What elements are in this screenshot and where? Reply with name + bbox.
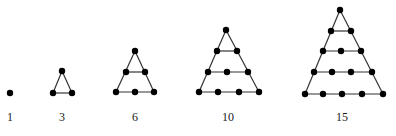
figure-label: 15	[336, 110, 348, 124]
triangle-figure-10: 10	[196, 27, 262, 124]
dot	[123, 69, 129, 75]
figure-label: 3	[59, 110, 65, 124]
dot	[234, 48, 240, 54]
dot	[50, 90, 56, 96]
figure-label: 6	[132, 110, 138, 124]
dot	[142, 69, 148, 75]
dot	[236, 89, 242, 95]
triangle-figure-3: 3	[50, 68, 75, 124]
dot	[132, 48, 138, 54]
dot	[348, 69, 354, 75]
dot	[369, 69, 375, 75]
dot	[214, 48, 220, 54]
dot	[113, 89, 119, 95]
dot	[215, 89, 221, 95]
dot	[196, 89, 202, 95]
dot	[338, 48, 344, 54]
dot	[358, 48, 364, 54]
dot	[7, 90, 13, 96]
dot	[329, 69, 335, 75]
dot	[151, 89, 157, 95]
dot	[245, 69, 251, 75]
figure-label: 1	[7, 110, 13, 124]
dot	[223, 27, 229, 33]
dot	[69, 90, 75, 96]
dot	[380, 91, 386, 97]
dot	[348, 28, 354, 34]
right-edge	[226, 30, 259, 92]
dot	[328, 28, 334, 34]
dot	[205, 69, 211, 75]
dot	[337, 7, 343, 13]
left-edge	[53, 71, 62, 93]
dot	[311, 69, 317, 75]
figure-label: 10	[222, 110, 234, 124]
triangular-numbers-diagram: 1361015	[0, 0, 396, 136]
dot	[339, 91, 345, 97]
dot	[302, 91, 308, 97]
dot	[320, 48, 326, 54]
dot	[59, 68, 65, 74]
dot	[320, 91, 326, 97]
dot	[256, 89, 262, 95]
left-edge	[199, 30, 226, 92]
dot	[359, 91, 365, 97]
dot	[132, 89, 138, 95]
dot	[224, 69, 230, 75]
triangle-figure-6: 6	[113, 48, 157, 124]
triangle-figure-15: 15	[302, 7, 386, 124]
triangle-figure-1: 1	[7, 90, 13, 124]
right-edge	[62, 71, 72, 93]
